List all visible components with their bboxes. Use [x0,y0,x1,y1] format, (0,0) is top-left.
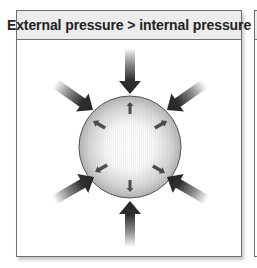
adjacent-panel-edge [254,10,257,257]
adjacent-panel-header [255,11,257,40]
diagram-area [17,40,241,256]
arrow-down-right-icon [49,75,99,119]
figure: External pressure > internal pressure [0,0,257,268]
arrow-down-icon [119,48,141,94]
panel-title: External pressure > internal pressure [17,11,241,40]
pressure-panel: External pressure > internal pressure [16,10,242,257]
arrow-up-icon [119,201,141,247]
arrow-down-left-icon [161,75,211,119]
